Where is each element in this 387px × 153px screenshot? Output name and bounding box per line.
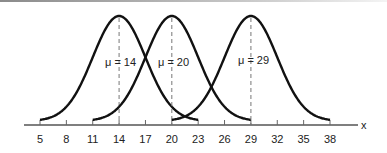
x-axis-ticks: 5811141720232629323538	[37, 120, 336, 145]
tick-label: 14	[113, 133, 125, 145]
x-axis-label: x	[361, 119, 367, 131]
tick-label: 11	[87, 133, 98, 145]
tick-label: 38	[324, 133, 336, 145]
tick-label: 26	[218, 133, 230, 145]
normal-curves-chart: 5811141720232629323538 μ = 14μ = 20μ = 2…	[0, 0, 387, 153]
curves	[40, 16, 330, 125]
tick-label: 32	[271, 133, 283, 145]
mean-label: μ = 29	[238, 54, 269, 66]
mean-label: μ = 14	[105, 56, 136, 68]
tick-label: 8	[63, 133, 69, 145]
tick-label: 35	[298, 133, 310, 145]
tick-label: 23	[192, 133, 204, 145]
mean-label: μ = 20	[158, 56, 189, 68]
tick-label: 29	[245, 133, 257, 145]
tick-label: 17	[139, 133, 151, 145]
tick-label: 20	[166, 133, 178, 145]
mean-labels: μ = 14μ = 20μ = 29	[105, 54, 269, 68]
tick-label: 5	[37, 133, 43, 145]
